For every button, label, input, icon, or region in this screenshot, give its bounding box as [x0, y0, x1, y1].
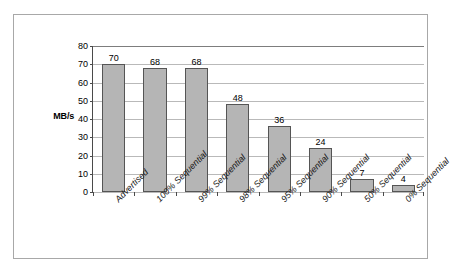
y-tick-label: 70	[78, 59, 88, 69]
x-label-slot: 0% Sequential	[403, 194, 445, 264]
bar-value-label: 24	[316, 137, 326, 147]
x-axis-category-labels: Advertised100% Sequential99% Sequential9…	[92, 194, 424, 264]
y-tick-label: 40	[78, 114, 88, 124]
x-label-slot: 100% Sequential	[154, 194, 196, 264]
bar-value-label: 4	[401, 174, 406, 184]
bar-value-label: 48	[233, 93, 243, 103]
x-label-slot: Advertised	[113, 194, 155, 264]
y-tick-label: 80	[78, 41, 88, 51]
bar-slot: 70	[93, 46, 134, 192]
bar-value-label: 68	[150, 57, 160, 67]
x-label-slot: 50% Sequential	[362, 194, 404, 264]
y-tick-label: 10	[78, 169, 88, 179]
bar[interactable]: 48	[226, 104, 249, 192]
y-tick-label: 20	[78, 151, 88, 161]
x-label-slot: 99% Sequential	[196, 194, 238, 264]
bar-value-label: 68	[191, 57, 201, 67]
y-tick-label: 30	[78, 132, 88, 142]
y-tick-label: 0	[83, 187, 88, 197]
y-tick-label: 60	[78, 78, 88, 88]
y-axis-title: MB/s	[30, 111, 74, 121]
bar[interactable]: 70	[102, 64, 125, 192]
x-label-slot: 95% Sequential	[279, 194, 321, 264]
bar-value-label: 70	[109, 53, 119, 63]
x-label-slot: 90% Sequential	[320, 194, 362, 264]
y-tick-label: 50	[78, 96, 88, 106]
bar-value-label: 36	[274, 115, 284, 125]
chart-frame: MB/s 80706050403020100 70686848362474 Ad…	[13, 14, 428, 259]
x-label-slot: 98% Sequential	[237, 194, 279, 264]
